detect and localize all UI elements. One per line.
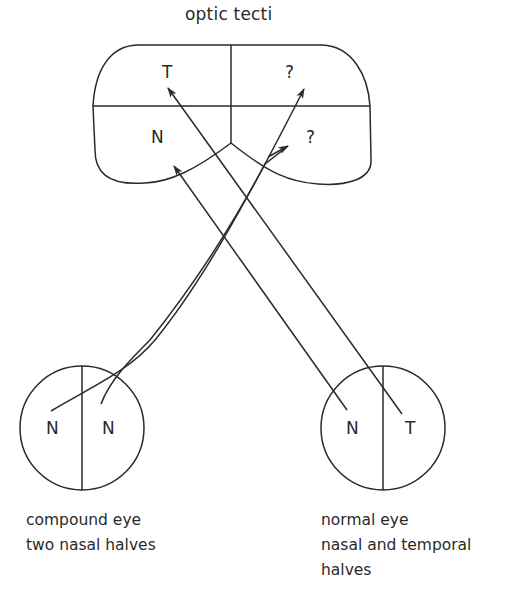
compound-eye-right-nasal-label: N [102, 418, 115, 438]
tectum-unknown-upper-label: ? [285, 62, 294, 82]
diagram-canvas [0, 0, 516, 592]
fiber-compound-nasal-1 [51, 89, 304, 411]
tectum-outline [93, 45, 371, 184]
fiber-compound-nasal-2 [101, 147, 287, 404]
compound-eye-caption: compound eye two nasal halves [26, 508, 156, 558]
compound-eye-caption-line2: two nasal halves [26, 533, 156, 558]
normal-eye-caption-line3: halves [321, 558, 471, 583]
normal-eye-caption: normal eye nasal and temporal halves [321, 508, 471, 583]
normal-eye-caption-line1: normal eye [321, 508, 471, 533]
tectum-temporal-label: T [162, 62, 172, 82]
normal-eye-temporal-label: T [405, 418, 415, 438]
compound-eye-caption-line1: compound eye [26, 508, 156, 533]
compound-eye-left-nasal-label: N [46, 418, 59, 438]
fiber-normal-temporal [168, 88, 402, 414]
tectum-unknown-lower-label: ? [306, 127, 315, 147]
fiber-normal-nasal [174, 166, 347, 410]
normal-eye-nasal-label: N [346, 418, 359, 438]
diagram-title: optic tecti [185, 4, 272, 24]
normal-eye-caption-line2: nasal and temporal [321, 533, 471, 558]
tectum-nasal-label: N [151, 127, 164, 147]
